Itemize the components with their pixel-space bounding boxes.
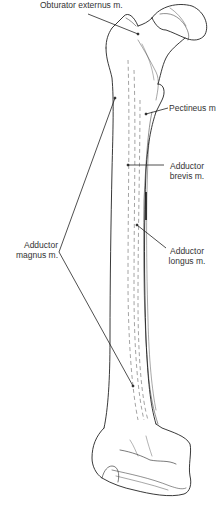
- label-adductor-longus: Adductor longus m.: [166, 246, 208, 266]
- label-adductor-longus-line2: longus m.: [166, 256, 208, 266]
- label-adductor-longus-line1: Adductor: [166, 246, 208, 256]
- linea-aspera-dashed-2: [134, 70, 144, 420]
- lateral-margin: [104, 48, 113, 428]
- label-obturator-externus: Obturator externus m.: [40, 0, 123, 10]
- leader-obturator-externus: [88, 14, 138, 34]
- label-adductor-brevis: Adductor brevis m.: [166, 161, 208, 181]
- leader-adductor-magnus: [59, 98, 133, 386]
- label-adductor-magnus-line1: Adductor: [14, 240, 58, 250]
- label-pectineus: Pectineus m.: [169, 103, 216, 113]
- leader-pectineus: [146, 108, 168, 114]
- medial-margin: [145, 112, 157, 424]
- distal-condyles: [92, 424, 191, 496]
- linea-aspera-dashed-3: [138, 100, 148, 420]
- leader-adductor-longus: [137, 225, 166, 248]
- femoral-head: [152, 5, 207, 41]
- label-adductor-brevis-line1: Adductor: [166, 161, 208, 171]
- label-adductor-magnus-line2: magnus m.: [14, 250, 58, 260]
- label-adductor-brevis-line2: brevis m.: [166, 171, 208, 181]
- label-adductor-magnus: Adductor magnus m.: [14, 240, 58, 260]
